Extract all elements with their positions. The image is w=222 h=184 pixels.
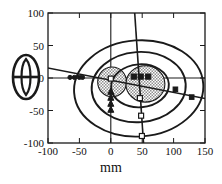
y-tick-label: -100 — [0, 138, 44, 149]
x-tick-label: 100 — [165, 146, 182, 157]
marker-square-open — [108, 76, 113, 81]
marker-square-filled — [146, 74, 151, 79]
y-tick-label: -50 — [0, 105, 44, 116]
y-tick-label: 50 — [0, 40, 44, 51]
marker-circle-filled — [72, 75, 76, 79]
y-tick-label: 0 — [0, 73, 44, 84]
marker-square-filled — [189, 95, 194, 100]
marker-circle-filled — [68, 75, 72, 79]
marker-square-open — [139, 134, 144, 139]
marker-square-filled — [138, 74, 143, 79]
figure-container: -100 -50 0 50 100 150 100 50 0 -50 -100 … — [0, 0, 222, 184]
x-tick-label: 50 — [137, 146, 148, 157]
y-tick-label: 100 — [0, 8, 44, 19]
marker-square-filled — [131, 74, 136, 79]
marker-triangle-up — [108, 106, 114, 112]
marker-square-open — [139, 113, 144, 118]
x-axis-title: mm — [0, 161, 222, 175]
x-tick-label: -50 — [72, 146, 87, 157]
marker-square-filled — [173, 87, 178, 92]
marker-circle-filled — [80, 75, 84, 79]
x-tick-label: 150 — [197, 146, 214, 157]
x-tick-label: 0 — [108, 146, 114, 157]
marker-square-open — [137, 96, 142, 101]
